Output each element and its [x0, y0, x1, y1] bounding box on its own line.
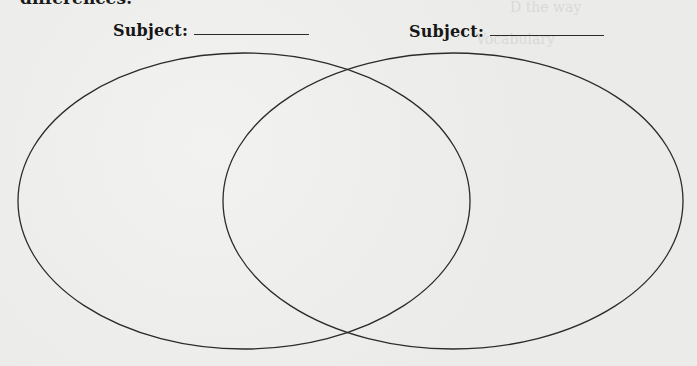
venn-diagram: [0, 0, 697, 366]
right-ellipse[interactable]: [223, 53, 683, 349]
left-ellipse[interactable]: [18, 53, 470, 349]
